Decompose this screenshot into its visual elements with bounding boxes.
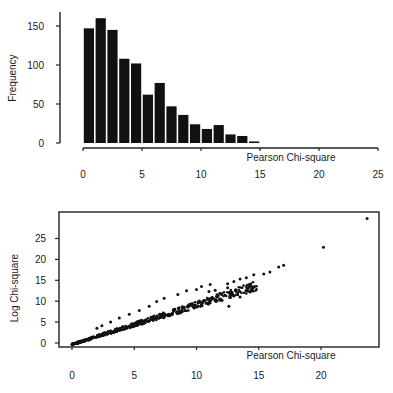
histogram-bar xyxy=(249,141,259,143)
scatter-point xyxy=(207,290,210,293)
histogram-x-label: Pearson Chi-square xyxy=(247,152,336,163)
scatter-plot-frame xyxy=(59,212,379,347)
scatter-point xyxy=(227,305,230,308)
scatter-point xyxy=(277,265,280,268)
x-tick-label: 0 xyxy=(80,169,86,180)
scatter-point xyxy=(229,294,232,297)
scatter-point xyxy=(200,285,203,288)
scatter-points xyxy=(71,217,369,346)
histogram-bar xyxy=(166,106,176,143)
histogram-bar xyxy=(143,95,153,143)
histogram-bar xyxy=(178,115,188,143)
y-tick-label: 20 xyxy=(35,254,47,265)
scatter-point xyxy=(239,278,242,281)
y-tick-label: 100 xyxy=(27,60,44,71)
histogram-bars xyxy=(84,18,259,143)
scatter-point xyxy=(322,246,325,249)
x-tick-label: 15 xyxy=(253,370,265,381)
figure: 050100150 0510152025 Frequency Pearson C… xyxy=(0,0,393,393)
histogram-bar xyxy=(96,18,106,143)
y-tick-label: 50 xyxy=(33,99,45,110)
y-tick-label: 25 xyxy=(35,233,47,244)
x-tick-label: 10 xyxy=(191,370,203,381)
scatter-point xyxy=(155,300,158,303)
x-tick-label: 25 xyxy=(372,169,384,180)
histogram-bar xyxy=(119,59,129,143)
y-tick-label: 15 xyxy=(35,275,47,286)
scatter-point xyxy=(118,316,121,319)
y-tick-label: 0 xyxy=(38,138,44,149)
histogram-y-ticks: 050100150 xyxy=(27,21,60,149)
scatter-y-ticks: 0510152025 xyxy=(35,233,59,349)
histogram-bar xyxy=(84,28,94,143)
histogram-bar xyxy=(214,125,224,143)
x-tick-label: 5 xyxy=(131,370,137,381)
scatter-point xyxy=(128,313,131,316)
x-tick-label: 20 xyxy=(313,169,325,180)
x-tick-label: 0 xyxy=(69,370,75,381)
scatter-point xyxy=(252,273,255,276)
scatter-point xyxy=(195,288,198,291)
scatter-point xyxy=(100,324,103,327)
x-tick-label: 10 xyxy=(195,169,207,180)
histogram-bar xyxy=(225,134,235,143)
x-tick-label: 5 xyxy=(139,169,145,180)
y-tick-label: 10 xyxy=(35,296,47,307)
scatter-point xyxy=(226,282,229,285)
histogram-y-label: Frequency xyxy=(7,54,18,101)
scatter-point xyxy=(366,217,369,220)
scatter-point xyxy=(138,309,141,312)
x-tick-label: 15 xyxy=(254,169,266,180)
scatter-x-label: Pearson Chi-square xyxy=(247,350,336,361)
scatter-point xyxy=(109,321,112,324)
y-tick-label: 0 xyxy=(40,338,46,349)
scatter-point xyxy=(95,327,98,330)
histogram-bar xyxy=(107,30,117,143)
histogram-bar xyxy=(190,124,200,143)
scatter-point xyxy=(185,289,188,292)
histogram-chart: 050100150 0510152025 Frequency Pearson C… xyxy=(7,12,384,180)
histogram-bar xyxy=(202,129,212,143)
scatter-point xyxy=(268,270,271,273)
y-tick-label: 150 xyxy=(27,21,44,32)
histogram-bar xyxy=(155,83,165,143)
scatter-point xyxy=(262,273,265,276)
scatter-point xyxy=(239,296,242,299)
y-tick-label: 5 xyxy=(40,317,46,328)
histogram-x-ticks: 0510152025 xyxy=(80,148,384,180)
scatter-point xyxy=(245,276,248,279)
scatter-point xyxy=(214,289,217,292)
scatter-point xyxy=(226,286,229,289)
scatter-chart: 0510152025 05101520 Log Chi-square Pears… xyxy=(9,212,379,381)
scatter-point xyxy=(282,264,285,267)
scatter-point xyxy=(232,280,235,283)
scatter-point xyxy=(209,283,212,286)
histogram-bar xyxy=(131,63,141,143)
histogram-bar xyxy=(237,136,247,143)
scatter-y-label: Log Chi-square xyxy=(9,253,20,322)
scatter-point xyxy=(176,293,179,296)
scatter-point xyxy=(163,297,166,300)
scatter-point xyxy=(148,305,151,308)
x-tick-label: 20 xyxy=(315,370,327,381)
